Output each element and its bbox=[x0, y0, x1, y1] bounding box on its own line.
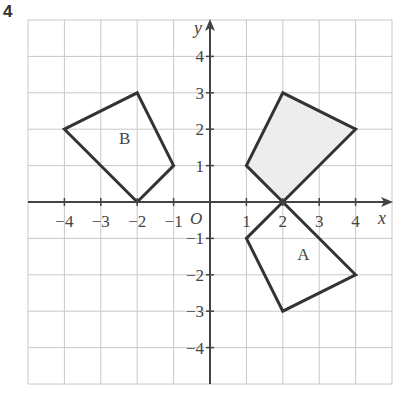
shape-shaded bbox=[246, 93, 355, 202]
x-tick-label: 4 bbox=[351, 212, 360, 231]
y-tick-label: 1 bbox=[196, 157, 205, 176]
shape-label-b: B bbox=[119, 129, 130, 148]
y-tick-label: 3 bbox=[196, 84, 205, 103]
y-tick-label: −3 bbox=[186, 302, 204, 321]
y-axis-label: y bbox=[192, 18, 202, 38]
y-tick-label: −1 bbox=[186, 229, 204, 248]
origin-label: O bbox=[190, 209, 202, 228]
x-tick-label: −1 bbox=[165, 212, 183, 231]
y-tick-label: 4 bbox=[196, 47, 205, 66]
shape-label-a: A bbox=[297, 245, 310, 264]
x-tick-label: 3 bbox=[315, 212, 324, 231]
y-tick-label: −4 bbox=[186, 339, 205, 358]
x-tick-label: −3 bbox=[92, 212, 110, 231]
x-tick-label: 1 bbox=[242, 212, 251, 231]
y-tick-label: 2 bbox=[196, 120, 205, 139]
coordinate-grid: AB−4−3−2−112344321−1−2−3−4Oxy bbox=[0, 0, 402, 403]
x-tick-label: 2 bbox=[279, 212, 288, 231]
x-tick-label: −2 bbox=[128, 212, 146, 231]
y-tick-label: −2 bbox=[186, 266, 204, 285]
x-tick-label: −4 bbox=[55, 212, 74, 231]
x-axis-label: x bbox=[377, 208, 386, 228]
